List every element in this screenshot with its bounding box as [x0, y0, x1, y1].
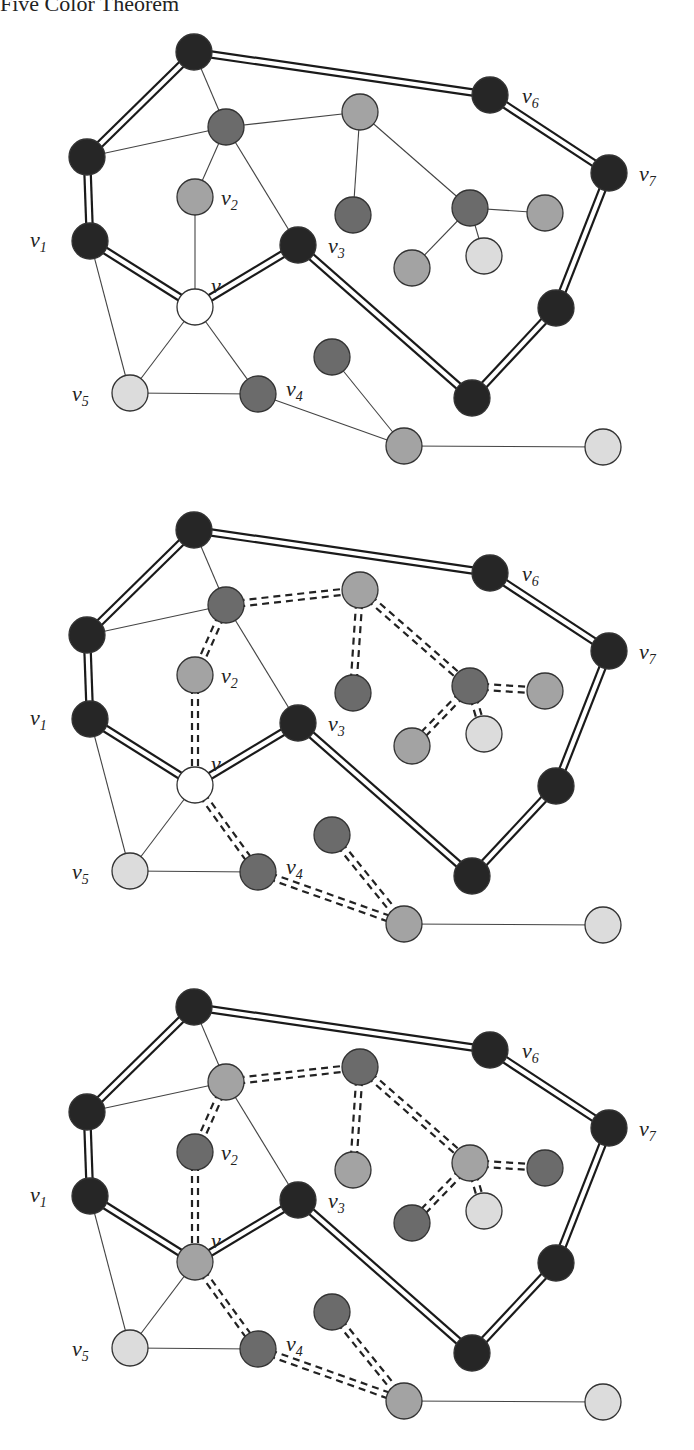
vertex	[386, 1383, 422, 1419]
graph-figure-kempe-chain: v6v7v2v1vv3v5v4	[0, 478, 694, 958]
vertex	[527, 1150, 563, 1186]
vertex-label-v6: v6	[522, 83, 539, 111]
cycle-edge	[296, 247, 470, 400]
vertex	[454, 1335, 490, 1371]
vertex-label-v5: v5	[72, 381, 89, 409]
vertex	[394, 250, 430, 286]
kempe-chain-edge	[358, 592, 468, 688]
vertex-v3	[280, 1182, 316, 1218]
vertex-label-v3: v3	[328, 1188, 345, 1216]
cycle-edge	[488, 576, 607, 654]
vertex-v5	[112, 375, 148, 411]
cycle-edge	[88, 722, 193, 788]
vertex-label-v6: v6	[522, 1038, 539, 1066]
vertex-label-v1: v1	[30, 227, 47, 255]
kempe-chain-edge	[358, 1069, 468, 1165]
vertex	[208, 1064, 244, 1100]
cycle-edge	[474, 310, 558, 400]
cycle-edge	[194, 49, 490, 92]
kempe-chain-edge	[226, 1070, 360, 1085]
vertex	[176, 34, 212, 70]
vertex	[585, 429, 621, 465]
graph-edge	[258, 394, 404, 446]
graph-edge	[130, 871, 258, 872]
vertex	[342, 94, 378, 130]
cycle-edge	[553, 650, 606, 785]
vertex-v7	[591, 633, 627, 669]
vertex-v2	[177, 1134, 213, 1170]
vertex-v1	[72, 701, 108, 737]
vertex-label-v7: v7	[639, 1116, 657, 1144]
graph-edge	[130, 1348, 258, 1349]
vertex	[466, 1193, 502, 1229]
vertex	[386, 906, 422, 942]
graph-edge	[130, 393, 258, 394]
cycle-edge	[553, 1127, 606, 1262]
cycle-edge	[89, 1009, 196, 1114]
vertex	[538, 1245, 574, 1281]
cycle-edge	[85, 50, 192, 155]
cycle-edge	[85, 528, 192, 633]
vertex-label-v7: v7	[639, 639, 657, 667]
vertex-label-v3: v3	[328, 233, 345, 261]
vertex	[342, 1049, 378, 1085]
graph-figure-swapped: v6v7v2v1vv3v5v4	[0, 955, 694, 1435]
vertex	[208, 109, 244, 145]
vertex	[335, 197, 371, 233]
cycle-edge	[88, 244, 193, 310]
vertex-v2	[177, 657, 213, 693]
vertex	[335, 1152, 371, 1188]
vertex	[452, 1145, 488, 1181]
vertex	[314, 339, 350, 375]
graph-svg: v6v7v2v1vv3v5v4	[0, 955, 694, 1435]
vertex	[69, 139, 105, 175]
vertex-v3	[280, 705, 316, 741]
cycle-edge	[85, 1005, 192, 1110]
graph-figure-original: v6v7v2v1vv3v5v4	[0, 0, 694, 480]
kempe-chain-edge	[259, 1346, 405, 1398]
vertex-label-v4: v4	[286, 376, 303, 404]
vertex-v6	[472, 1032, 508, 1068]
vertex-v7	[591, 1110, 627, 1146]
vertex	[538, 290, 574, 326]
cycle-edge	[194, 55, 490, 98]
cycle-edge	[92, 716, 197, 782]
graph-edge	[226, 605, 298, 723]
vertex-label-v5: v5	[72, 859, 89, 887]
vertex-label-v: v	[211, 751, 221, 776]
vertex-label-v: v	[211, 1228, 221, 1253]
graph-edge	[360, 112, 470, 208]
kempe-chain-edge	[362, 588, 472, 684]
vertex	[466, 716, 502, 752]
vertex-v1	[72, 223, 108, 259]
vertex-label-v4: v4	[286, 1331, 303, 1359]
cycle-edge	[92, 238, 197, 304]
vertex	[452, 190, 488, 226]
cycle-edge	[474, 1265, 558, 1355]
cycle-edge	[194, 527, 490, 570]
vertex-v7	[591, 155, 627, 191]
vertex	[69, 617, 105, 653]
vertex-label-v6: v6	[522, 561, 539, 589]
cycle-edge	[559, 174, 612, 309]
vertex-v	[177, 767, 213, 803]
vertex-v4	[240, 376, 276, 412]
vertex	[69, 1094, 105, 1130]
cycle-edge	[492, 1047, 611, 1125]
graph-edge	[90, 241, 130, 393]
vertex	[466, 238, 502, 274]
vertex	[208, 587, 244, 623]
vertex-v3	[280, 227, 316, 263]
vertex-v	[177, 1244, 213, 1280]
cycle-edge	[470, 784, 554, 874]
cycle-edge	[194, 1010, 490, 1053]
vertex-v5	[112, 1330, 148, 1366]
cycle-edge	[470, 1261, 554, 1351]
cycle-edge	[559, 652, 612, 787]
cycle-edge	[88, 1199, 193, 1265]
cycle-edge	[470, 306, 554, 396]
vertex	[176, 512, 212, 548]
graph-edge	[226, 112, 360, 127]
vertex	[314, 817, 350, 853]
vertex	[454, 858, 490, 894]
